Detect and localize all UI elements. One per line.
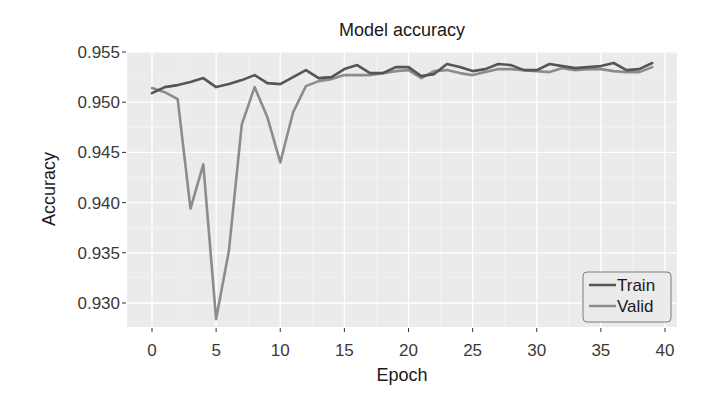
x-tick-label: 35 xyxy=(591,341,610,360)
x-tick-label: 30 xyxy=(527,341,546,360)
x-tick-label: 10 xyxy=(271,341,290,360)
y-tick-label: 0.935 xyxy=(77,244,120,263)
y-axis: 0.9300.9350.9400.9450.9500.955 xyxy=(77,43,126,313)
chart-container: Model accuracy 0.9300.9350.9400.9450.950… xyxy=(0,0,705,400)
line-chart: Model accuracy 0.9300.9350.9400.9450.950… xyxy=(0,0,705,400)
x-tick-label: 15 xyxy=(335,341,354,360)
y-axis-label: Accuracy xyxy=(39,152,59,226)
y-tick-label: 0.950 xyxy=(77,93,120,112)
x-tick-label: 25 xyxy=(463,341,482,360)
y-tick-label: 0.945 xyxy=(77,143,120,162)
legend-valid-label: Valid xyxy=(617,297,654,316)
x-axis: 0510152025303540 xyxy=(147,328,674,360)
legend-train-label: Train xyxy=(617,276,655,295)
x-tick-label: 5 xyxy=(211,341,220,360)
y-tick-label: 0.940 xyxy=(77,194,120,213)
y-tick-label: 0.955 xyxy=(77,43,120,62)
legend: Train Valid xyxy=(583,272,671,322)
x-tick-label: 20 xyxy=(399,341,418,360)
y-tick-label: 0.930 xyxy=(77,294,120,313)
x-tick-label: 40 xyxy=(656,341,675,360)
x-tick-label: 0 xyxy=(147,341,156,360)
chart-title: Model accuracy xyxy=(339,20,465,40)
x-axis-label: Epoch xyxy=(376,365,427,385)
